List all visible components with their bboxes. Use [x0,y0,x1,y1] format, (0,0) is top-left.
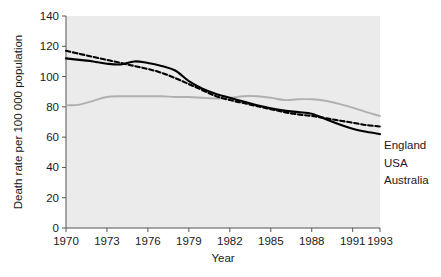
y-tick-label: 120 [40,40,59,52]
x-axis-tick-labels: 197019731976197919821985198819911993 [53,235,393,247]
legend-label-england: England [384,139,426,151]
y-axis-title: Death rate per 100 000 population [12,35,24,210]
chart-svg: 020406080100120140 197019731976197919821… [0,0,441,277]
y-tick-label: 80 [46,101,59,113]
x-axis-title: Year [211,252,234,264]
legend-label-australia: Australia [384,174,429,186]
x-tick-label: 1982 [217,235,243,247]
x-tick-label: 1979 [176,235,202,247]
x-tick-label: 1970 [53,235,79,247]
y-tick-label: 140 [40,10,59,22]
line-chart: 020406080100120140 197019731976197919821… [0,0,441,277]
x-tick-label: 1988 [299,235,325,247]
x-tick-label: 1993 [367,235,393,247]
y-tick-label: 20 [46,192,59,204]
y-tick-label: 0 [53,222,59,234]
x-tick-label: 1985 [258,235,284,247]
y-tick-label: 100 [40,71,59,83]
x-tick-label: 1976 [135,235,161,247]
x-tick-label: 1973 [94,235,120,247]
y-tick-label: 40 [46,161,59,173]
legend-label-usa: USA [384,157,408,169]
x-tick-label: 1991 [340,235,366,247]
y-tick-label: 60 [46,131,59,143]
